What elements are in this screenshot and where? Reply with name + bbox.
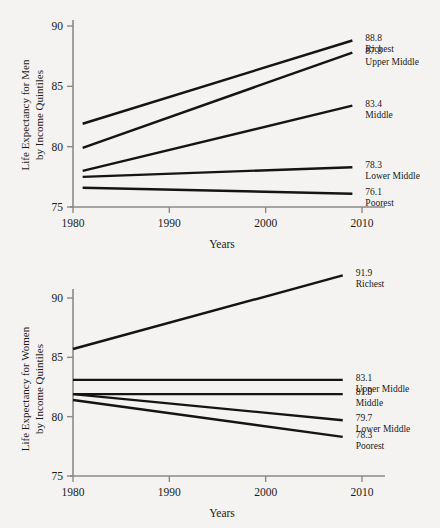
chart-men: Life Expectancy for Men by Income Quinti… xyxy=(0,0,440,264)
y-tick-label: 90 xyxy=(52,20,64,32)
y-tick-label: 80 xyxy=(52,141,64,153)
annotation-label-poorest: Poorest xyxy=(365,198,394,208)
annotation-value-middle: 83.4 xyxy=(365,99,382,109)
series-line-poorest xyxy=(83,188,353,194)
series-line-upper-middle xyxy=(83,53,353,148)
annotation-value-richest: 88.8 xyxy=(365,33,382,43)
y-tick-label: 90 xyxy=(52,292,64,304)
women-annotation-group: 91.9Richest83.1Upper Middle81.9Middle79.… xyxy=(356,268,411,450)
women-x-axis-title: Years xyxy=(209,507,235,519)
series-line-richest xyxy=(83,40,353,123)
x-tick-label: 1980 xyxy=(62,217,85,229)
men-y-axis-title-line1: Life Expectancy for Men xyxy=(19,59,31,170)
men-y-tick-group: 75808590 xyxy=(52,20,74,213)
series-line-lower-middle xyxy=(83,167,353,177)
women-y-axis-title: Life Expectancy for Women by Income Quin… xyxy=(19,326,45,451)
x-tick-label: 2000 xyxy=(254,486,277,498)
annotation-value-lower-middle: 78.3 xyxy=(365,160,382,170)
chart-men-svg: Life Expectancy for Men by Income Quinti… xyxy=(0,0,440,264)
men-y-axis-title: Life Expectancy for Men by Income Quinti… xyxy=(19,59,45,170)
women-y-tick-group: 75808590 xyxy=(52,292,74,482)
x-tick-label: 1990 xyxy=(158,486,181,498)
men-x-axis-title: Years xyxy=(209,238,235,250)
men-series-group xyxy=(83,40,353,193)
annotation-label-upper-middle: Upper Middle xyxy=(365,57,419,67)
annotation-label-richest: Richest xyxy=(356,279,385,289)
x-tick-label: 1990 xyxy=(158,217,181,229)
series-line-richest xyxy=(73,275,343,349)
annotation-label-poorest: Poorest xyxy=(356,441,385,451)
men-y-axis-title-line2: by Income Quintiles xyxy=(33,70,45,160)
annotation-label-middle: Middle xyxy=(365,110,392,120)
annotation-value-richest: 91.9 xyxy=(356,268,373,278)
y-tick-label: 80 xyxy=(52,411,64,423)
women-x-tick-group: 1980199020002010 xyxy=(62,476,374,498)
annotation-label-lower-middle: Lower Middle xyxy=(365,171,420,181)
annotation-value-upper-middle: 83.1 xyxy=(356,373,373,383)
y-tick-label: 85 xyxy=(52,80,64,92)
series-line-middle xyxy=(83,106,353,171)
annotation-value-poorest: 76.1 xyxy=(365,187,382,197)
y-tick-label: 75 xyxy=(52,201,64,213)
annotation-value-upper-middle: 87.8 xyxy=(365,46,382,56)
x-tick-label: 1980 xyxy=(62,486,85,498)
women-y-axis-title-line1: Life Expectancy for Women xyxy=(19,326,31,451)
x-tick-label: 2000 xyxy=(254,217,277,229)
chart-women-svg: Life Expectancy for Women by Income Quin… xyxy=(0,264,440,528)
annotation-value-lower-middle: 79.7 xyxy=(356,413,373,423)
series-line-lower-middle xyxy=(73,394,343,420)
chart-women: Life Expectancy for Women by Income Quin… xyxy=(0,264,440,528)
men-x-tick-group: 1980199020002010 xyxy=(62,207,374,229)
y-tick-label: 85 xyxy=(52,351,64,363)
men-annotation-group: 88.8Richest87.8Upper Middle83.4Middle78.… xyxy=(365,33,420,207)
x-tick-label: 2010 xyxy=(351,217,374,229)
x-tick-label: 2010 xyxy=(351,486,374,498)
women-series-group xyxy=(73,275,343,436)
y-tick-label: 75 xyxy=(52,470,64,482)
annotation-label-middle: Middle xyxy=(356,398,383,408)
annotation-value-middle: 81.9 xyxy=(356,387,373,397)
series-line-poorest xyxy=(73,400,343,437)
annotation-value-poorest: 78.3 xyxy=(356,430,373,440)
women-y-axis-title-line2: by Income Quintiles xyxy=(33,344,45,434)
